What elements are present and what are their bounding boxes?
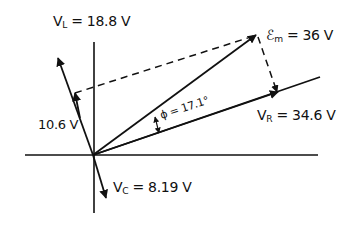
vl-minus-vc-value: 10.6 V	[38, 117, 78, 132]
vl-symbol: V	[53, 13, 62, 29]
em-value: = 36 V	[283, 27, 333, 43]
vr-symbol: V	[257, 107, 266, 123]
em-label: ℰm = 36 V	[266, 28, 333, 44]
vc-label: VC = 8.19 V	[113, 180, 191, 196]
vl-phasor-arrow	[58, 58, 93, 155]
vr-label: VR = 34.6 V	[257, 108, 335, 124]
em-phasor-arrow	[93, 35, 256, 155]
vc-phasor-arrow	[93, 155, 106, 198]
em-subscript: m	[274, 34, 283, 44]
dashed-line-reactive-to-em	[75, 36, 254, 93]
vl-value: = 18.8 V	[67, 13, 130, 29]
vl-label: VL = 18.8 V	[53, 14, 130, 30]
vc-value: = 8.19 V	[128, 179, 191, 195]
phi-angle-arrow	[155, 117, 159, 133]
vc-symbol: V	[113, 179, 122, 195]
vl-minus-vc-label: 10.6 V	[38, 118, 78, 131]
em-symbol: ℰ	[266, 27, 274, 43]
dashed-line-em-to-vr	[258, 37, 277, 92]
vr-value: = 34.6 V	[272, 107, 335, 123]
